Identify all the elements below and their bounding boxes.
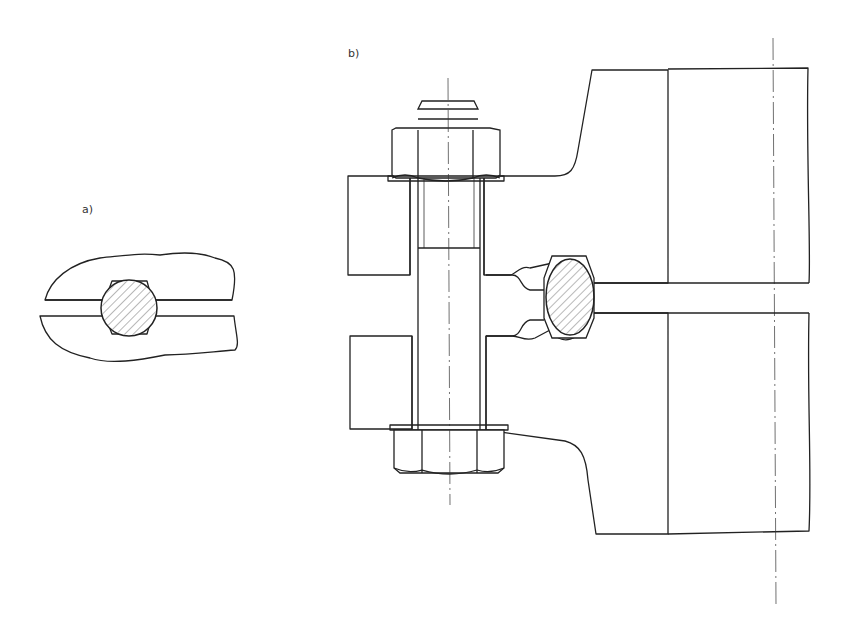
bottom-hex-nut <box>390 425 508 474</box>
upper-flange <box>348 176 410 275</box>
lower-flange <box>350 336 412 429</box>
view-a-detail <box>40 253 237 361</box>
pipe-wall <box>668 68 810 534</box>
view-b-flange-joint <box>348 38 810 605</box>
top-hex-nut <box>388 101 504 181</box>
ring-joint-gasket <box>546 259 594 335</box>
technical-drawing <box>0 0 863 635</box>
